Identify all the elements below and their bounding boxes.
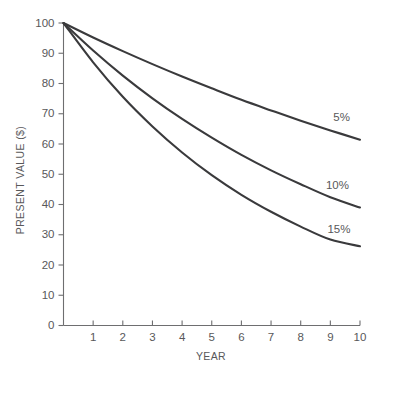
series-label-5pct: 5%: [333, 111, 350, 123]
x-tick-label: 10: [354, 331, 367, 343]
x-axis-title: YEAR: [196, 350, 226, 362]
x-tick-label: 3: [149, 331, 155, 343]
y-tick-label: 0: [48, 319, 54, 331]
x-tick-label: 2: [120, 331, 126, 343]
y-tick-label: 90: [42, 47, 55, 59]
y-axis-tick-labels: 0102030405060708090100: [35, 17, 54, 332]
x-tick-label: 6: [238, 331, 244, 343]
y-axis: 0102030405060708090100: [35, 17, 63, 332]
series-curve-10pct: [64, 23, 361, 208]
series-curve-15pct: [64, 23, 361, 246]
y-axis-ticks: [59, 23, 64, 326]
y-tick-label: 40: [42, 198, 55, 210]
x-tick-label: 5: [209, 331, 215, 343]
y-tick-label: 50: [42, 168, 55, 180]
y-tick-label: 20: [42, 259, 55, 271]
y-tick-label: 60: [42, 138, 55, 150]
x-tick-label: 9: [327, 331, 333, 343]
y-tick-label: 10: [42, 289, 55, 301]
series-label-15pct: 15%: [327, 223, 350, 235]
series-label-10pct: 10%: [326, 179, 349, 191]
x-tick-label: 7: [268, 331, 274, 343]
chart-canvas: 0102030405060708090100 12345678910 5%10%…: [0, 0, 395, 397]
x-tick-label: 1: [90, 331, 96, 343]
y-tick-label: 70: [42, 107, 55, 119]
data-series-group: [64, 23, 361, 246]
y-axis-title: PRESENT VALUE ($): [14, 126, 26, 235]
x-axis-ticks: [93, 321, 360, 326]
x-tick-label: 4: [179, 331, 186, 343]
present-value-chart: 0102030405060708090100 12345678910 5%10%…: [0, 0, 395, 397]
x-axis-tick-labels: 12345678910: [90, 331, 366, 343]
y-tick-label: 30: [42, 228, 55, 240]
y-tick-label: 100: [35, 17, 54, 29]
y-tick-label: 80: [42, 77, 55, 89]
x-axis: 12345678910: [64, 321, 367, 343]
x-tick-label: 8: [297, 331, 303, 343]
